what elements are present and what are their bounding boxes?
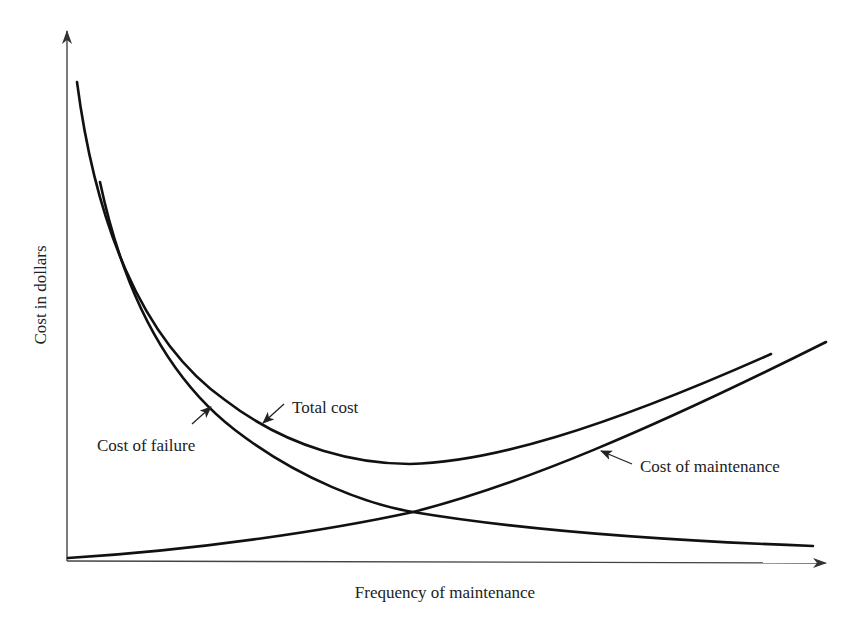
cost-of-maintenance-pointer-arrow bbox=[601, 451, 632, 464]
total-cost-label: Total cost bbox=[292, 398, 359, 417]
y-axis-label: Cost in dollars bbox=[31, 245, 50, 344]
x-axis-label: Frequency of maintenance bbox=[355, 583, 535, 602]
cost-curves-diagram: Cost in dollars Frequency of maintenance… bbox=[0, 0, 861, 624]
total-cost-pointer-arrow bbox=[263, 404, 284, 423]
cost-of-failure-pointer-arrow bbox=[192, 407, 211, 424]
x-axis bbox=[67, 561, 826, 563]
total-cost-curve bbox=[77, 82, 771, 464]
cost-of-maintenance-label: Cost of maintenance bbox=[640, 457, 780, 476]
cost-of-failure-curve bbox=[100, 182, 813, 546]
cost-of-failure-label: Cost of failure bbox=[97, 436, 195, 455]
